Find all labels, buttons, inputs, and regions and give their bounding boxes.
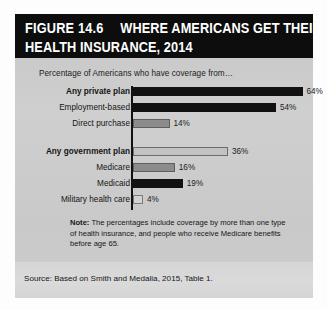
bar-value-label: 64% [307, 87, 323, 96]
bar-value-label: 19% [187, 179, 203, 188]
figure-title-line-2: HEALTH INSURANCE, 2014 [25, 39, 193, 55]
source-band: Source: Based on Smith and Medalia, 2015… [15, 262, 313, 298]
bar-label: Any government plan [46, 147, 130, 156]
bar-value-label: 14% [174, 119, 190, 128]
bar-military-health-care [133, 195, 144, 204]
figure-number: FIGURE 14.6 [25, 20, 104, 36]
bar-label: Employment-based [59, 103, 130, 112]
bar-row: Any government plan 36% [15, 146, 313, 157]
bar-chart-plot: Any private plan 64% Employment-based 54… [15, 86, 313, 211]
chart-body: Percentage of Americans who have coverag… [15, 58, 313, 262]
bar-label: Direct purchase [72, 119, 130, 128]
bar-direct-purchase [133, 119, 170, 128]
bar-label: Military health care [61, 195, 130, 204]
bar-any-private-plan [133, 87, 303, 96]
note-label: Note: [70, 218, 89, 227]
bar-any-government-plan [133, 147, 229, 156]
bar-employment-based [133, 103, 277, 112]
bar-row: Any private plan 64% [15, 86, 313, 97]
figure-title-line-1: WHERE AMERICANS GET THEIR [120, 20, 322, 36]
bar-row: Medicaid 19% [15, 178, 313, 189]
chart-note: Note: The percentages include coverage b… [70, 218, 290, 250]
figure-header: FIGURE 14.6WHERE AMERICANS GET THEIR HEA… [15, 14, 313, 58]
bar-value-label: 4% [147, 195, 159, 204]
chart-subtitle: Percentage of Americans who have coverag… [39, 69, 233, 78]
bar-row: Medicare 16% [15, 162, 313, 173]
bar-label: Medicaid [97, 179, 130, 188]
bar-row: Military health care 4% [15, 194, 313, 205]
figure-header-line-1: FIGURE 14.6WHERE AMERICANS GET THEIR [25, 19, 271, 38]
note-text: The percentages include coverage by more… [70, 218, 286, 248]
source-text: Source: Based on Smith and Medalia, 2015… [24, 274, 213, 283]
bar-medicare [133, 163, 176, 172]
bar-value-label: 36% [232, 147, 248, 156]
bar-row: Direct purchase 14% [15, 118, 313, 129]
bar-label: Any private plan [66, 87, 130, 96]
figure-header-line-2: HEALTH INSURANCE, 2014 [25, 38, 271, 57]
bar-medicaid [133, 179, 184, 188]
bar-value-label: 16% [179, 163, 195, 172]
bar-row: Employment-based 54% [15, 102, 313, 113]
page-background: FIGURE 14.6WHERE AMERICANS GET THEIR HEA… [0, 0, 327, 310]
figure-card: FIGURE 14.6WHERE AMERICANS GET THEIR HEA… [15, 14, 313, 298]
bar-value-label: 54% [280, 103, 296, 112]
bar-label: Medicare [96, 163, 130, 172]
